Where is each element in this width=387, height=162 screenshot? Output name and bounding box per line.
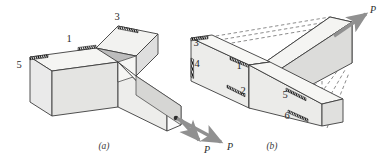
panel-a-label-3: 3	[114, 11, 119, 22]
panel-b-label-6: 6	[284, 110, 289, 121]
panel-a-left-arm-front-face	[52, 62, 118, 116]
panel-b-label-1: 1	[236, 60, 241, 71]
panel-b-caption: (b)	[266, 141, 277, 152]
panel-a-label-1: 1	[66, 33, 71, 44]
panel-b-force-label-p-lower: P	[203, 144, 210, 155]
panel-a-label-5: 5	[16, 59, 21, 70]
panel-b-force-label-p-upper: P	[369, 4, 376, 15]
figure-canvas: 1 3 5 P (a)	[0, 0, 387, 162]
panel-a-force-label-p: P	[226, 141, 233, 152]
panel-b: 3 4 1 2 5 6 P P (b)	[180, 4, 376, 155]
panel-b-right-arm-end-face	[322, 99, 343, 126]
panel-b-label-5: 5	[282, 89, 287, 100]
panel-b-label-4: 4	[194, 58, 200, 69]
panel-b-label-3: 3	[193, 37, 198, 48]
panel-b-hatch-section-4	[191, 58, 194, 78]
panel-b-label-2: 2	[240, 85, 245, 96]
panel-a-caption: (a)	[98, 141, 109, 152]
